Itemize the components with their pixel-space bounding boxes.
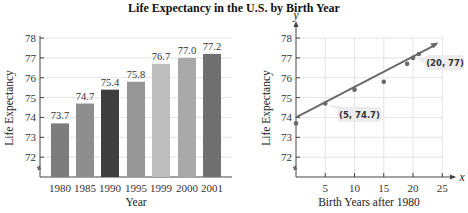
bar-2000 [178,58,196,177]
bar-2001 [203,54,221,177]
x-tick-label: 5 [323,182,329,194]
data-label: 73.7 [51,110,69,121]
bar-1995 [127,82,145,177]
trend-line [296,44,436,117]
data-label: 75.8 [127,69,145,80]
x-tick-label: 2000 [176,182,199,194]
chart-canvas: 7273747576777873.7198074.7198575.4199075… [0,0,468,213]
y-axis-name: y [292,9,299,22]
data-point [323,101,328,106]
x-tick-label: 2001 [201,182,223,194]
y-tick-label: 78 [281,32,293,44]
data-point [417,52,422,57]
x-tick-label: 15 [378,182,390,194]
y-tick-label: 73 [25,131,37,143]
y-tick-label: 74 [25,111,37,123]
x-axis-label: Birth Years after 1980 [318,196,420,208]
y-tick-label: 78 [25,32,37,44]
y-tick-label: 76 [281,72,293,84]
data-label: 76.7 [152,51,170,62]
y-tick-label: 77 [25,52,37,64]
y-tick-label: 75 [25,92,37,104]
x-tick-label: 1985 [74,182,97,194]
annotation-label: (20, 77) [426,58,464,68]
y-tick-label: 72 [25,151,36,163]
annotation-label: (5, 74.7) [339,110,380,120]
x-tick-label: 1995 [125,182,148,194]
y-tick-label: 75 [281,92,293,104]
x-tick-label: 1980 [49,182,72,194]
y-axis-label: Life Expectancy [260,70,273,146]
y-tick-label: 73 [281,131,293,143]
x-axis-label: Year [125,196,146,208]
data-label: 77.2 [203,41,221,52]
x-tick-label: 10 [349,182,361,194]
x-tick-label: 20 [408,182,420,194]
bar-1999 [152,64,170,177]
x-axis-name: x [458,171,465,183]
bar-1980 [51,123,69,177]
data-label: 74.7 [76,91,94,102]
x-tick-label: 25 [437,182,449,194]
data-point [294,121,299,126]
data-point [405,62,410,67]
data-point [411,56,416,61]
bar-1990 [101,90,119,177]
y-tick-label: 72 [281,151,292,163]
x-axis-arrow-icon [450,175,456,180]
data-label: 77.0 [178,45,196,56]
x-tick-label: 1999 [150,182,173,194]
data-point [381,79,386,84]
data-label: 75.4 [101,77,120,88]
y-tick-label: 77 [281,52,293,64]
x-tick-label: 1990 [99,182,122,194]
y-axis-label: Life Expectancy [3,70,16,146]
y-axis-arrow-icon [294,21,299,27]
data-point [352,87,357,92]
bar-1985 [76,104,94,177]
y-tick-label: 76 [25,72,37,84]
annotation-pointer [416,58,426,65]
y-tick-label: 74 [281,111,293,123]
